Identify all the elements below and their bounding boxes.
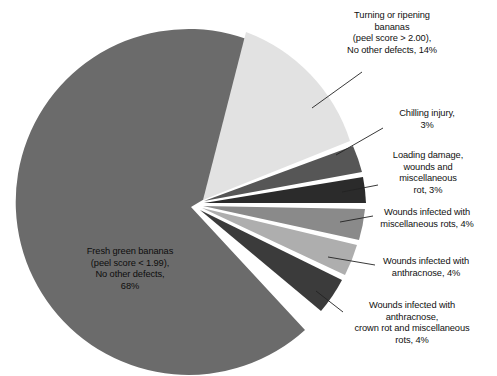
pie-chart: Turning or ripening bananas (peel score …: [0, 0, 497, 376]
pie-label-wounds-anthracnose-crown-rot: Wounds infected with anthracnose, crown …: [330, 300, 494, 346]
pie-label-chilling-injury: Chilling injury, 3%: [360, 108, 494, 131]
pie-label-wounds-anthracnose: Wounds infected with anthracnose, 4%: [358, 256, 494, 279]
pie-label-wounds-miscellaneous-rots: Wounds infected with miscellaneous rots,…: [358, 207, 496, 230]
pie-label-fresh-green-bananas: Fresh green bananas (peel score < 1.99),…: [45, 246, 215, 292]
pie-label-loading-damage: Loading damage, wounds and miscellaneous…: [362, 150, 494, 196]
pie-label-turning-ripening-bananas: Turning or ripening bananas (peel score …: [292, 10, 492, 56]
